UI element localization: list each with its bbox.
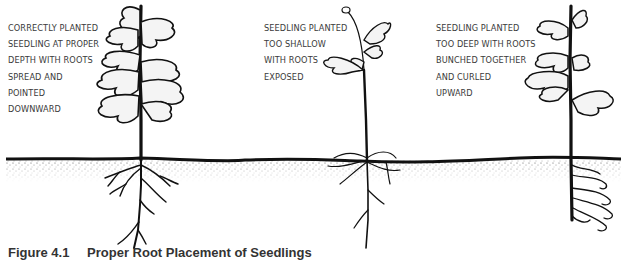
label-line: Seedling planted [436,20,536,36]
soil-line [6,157,621,182]
label-line: depth with roots [8,52,99,68]
figure-caption: Figure 4.1 Proper Root Placement of Seed… [8,245,312,260]
label-line: with roots [264,52,347,68]
label-line: and curled [436,69,536,85]
label-line: pointed [8,85,99,101]
label-line: exposed [264,69,347,85]
label-line: Correctly planted [8,20,99,36]
seedling-correct-icon [97,6,183,248]
label-line: spread and [8,69,99,85]
label-too-shallow: Seedling planted too shallow with roots … [264,20,347,85]
label-line: too shallow [264,36,347,52]
label-too-deep: Seedling planted too deep with roots bun… [436,20,536,101]
label-line: seedling at proper [8,36,99,52]
label-line: downward [8,101,99,117]
seedling-deep-icon [525,6,613,231]
figure-number: Figure 4.1 [8,245,69,260]
label-line: too deep with roots [436,36,536,52]
figure-title: Proper Root Placement of Seedlings [87,245,312,260]
label-correctly-planted: Correctly planted seedling at proper dep… [8,20,99,117]
label-line: bunched together [436,52,536,68]
label-line: upward [436,85,536,101]
label-line: Seedling planted [264,20,347,36]
